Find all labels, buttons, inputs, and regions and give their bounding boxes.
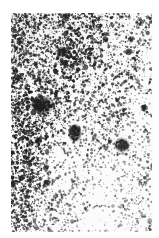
grain-field-canvas (11, 13, 152, 232)
micrograph-figure (0, 0, 159, 238)
micrograph-plate (11, 13, 152, 232)
